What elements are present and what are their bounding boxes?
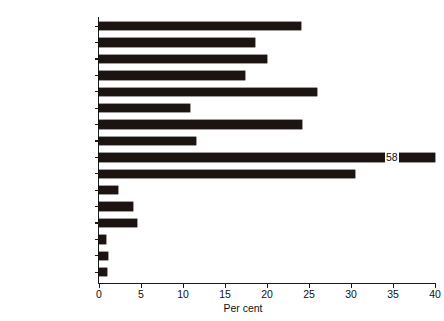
bar-chart: 0510152025303540 Per cent WheatMaizeBarl… [0,0,444,321]
y-axis-tick [95,222,99,223]
y-axis-tick [95,173,99,174]
bar-row[interactable] [99,34,435,50]
x-axis-tick-label: 5 [138,289,144,300]
x-axis-tick-label: 0 [96,289,102,300]
y-axis-tick [95,157,99,158]
x-axis-tick-label: 30 [345,289,357,300]
y-axis-tick [95,42,99,43]
x-axis-tick-label: 25 [303,289,315,300]
y-axis-tick [95,26,99,27]
x-axis-tick-label: 15 [219,289,231,300]
bar-row[interactable] [99,67,435,83]
x-axis-title-label: Per cent [223,303,262,314]
bar-row[interactable] [99,231,435,247]
bar-row[interactable] [99,18,435,34]
y-axis-tick [95,206,99,207]
bar-value-annotation: 58 [385,152,399,163]
bar-row[interactable] [99,182,435,198]
y-axis-tick [95,239,99,240]
bar-row[interactable] [99,51,435,67]
bar[interactable] [99,137,196,145]
bar-row[interactable] [99,100,435,116]
bar[interactable] [99,170,355,178]
y-axis-tick [95,255,99,256]
bar[interactable] [99,22,301,30]
bar[interactable] [99,120,302,128]
bar[interactable] [99,235,106,243]
y-axis-tick [95,140,99,141]
x-axis-tick-label: 20 [261,289,273,300]
bar[interactable] [99,268,107,276]
y-axis-tick [95,75,99,76]
x-axis-tick-label: 35 [387,289,399,300]
bar-row[interactable] [99,166,435,182]
bar[interactable] [99,252,108,260]
bar-row[interactable] [99,116,435,132]
bar-row[interactable] [99,198,435,214]
x-axis-tick-label: 10 [177,289,189,300]
bar[interactable] [99,88,317,96]
bar-row[interactable] [99,264,435,280]
bar[interactable] [99,55,267,63]
x-axis-tick-label: 40 [429,289,441,300]
y-axis-tick [95,108,99,109]
bar-row[interactable] [99,215,435,231]
bar[interactable] [99,186,118,194]
y-axis-tick [95,58,99,59]
bar[interactable] [99,219,137,227]
bar[interactable] [99,38,255,46]
y-axis-tick [95,124,99,125]
x-axis-title: Per cent [0,303,444,314]
y-axis-tick [95,91,99,92]
bar-row[interactable] [99,84,435,100]
bar[interactable] [99,104,190,112]
y-axis-tick [95,272,99,273]
bar-row[interactable] [99,133,435,149]
bar-row[interactable] [99,248,435,264]
bar[interactable] [99,71,245,79]
bar[interactable] [99,202,133,210]
y-axis-tick [95,190,99,191]
